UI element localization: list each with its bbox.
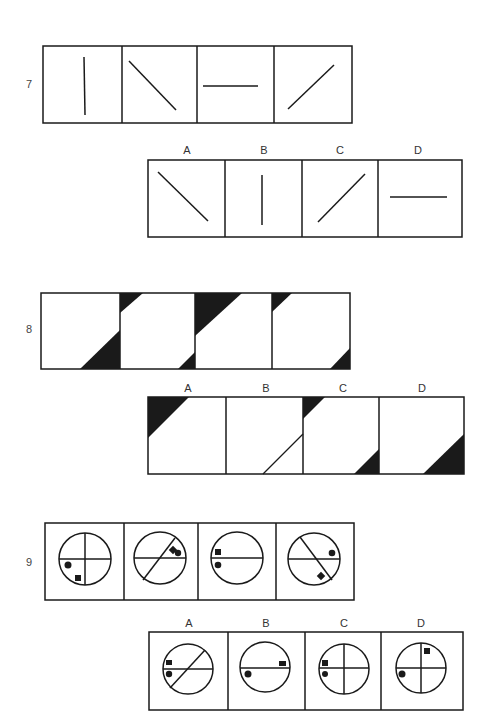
q8-option-b[interactable] bbox=[226, 397, 303, 474]
q8-options bbox=[148, 397, 464, 474]
q9-options bbox=[149, 632, 463, 710]
q8-option-a[interactable] bbox=[148, 397, 226, 474]
q9-option-d[interactable] bbox=[381, 632, 463, 710]
q7-sequence bbox=[43, 46, 352, 123]
q8-sequence bbox=[41, 293, 350, 369]
top-left-large-triangle bbox=[195, 293, 242, 336]
q7-option-a[interactable] bbox=[148, 160, 225, 237]
q9-option-a[interactable] bbox=[149, 632, 228, 710]
vertical-line-figure bbox=[84, 57, 85, 115]
backslash-line-figure bbox=[129, 61, 176, 110]
bottom-right-large-triangle bbox=[80, 330, 120, 369]
q7-option-d[interactable] bbox=[378, 160, 462, 237]
q9-sequence bbox=[45, 523, 354, 600]
q7-options bbox=[148, 160, 462, 237]
q7-option-c[interactable] bbox=[302, 160, 378, 237]
q9-option-b[interactable] bbox=[228, 632, 305, 710]
slash-line-figure bbox=[288, 65, 334, 109]
q9-option-c[interactable] bbox=[305, 632, 381, 710]
q8-option-d[interactable] bbox=[379, 397, 464, 474]
q8-option-c[interactable] bbox=[303, 397, 379, 474]
puzzle-canvas bbox=[0, 0, 490, 715]
q7-option-b[interactable] bbox=[225, 160, 302, 237]
